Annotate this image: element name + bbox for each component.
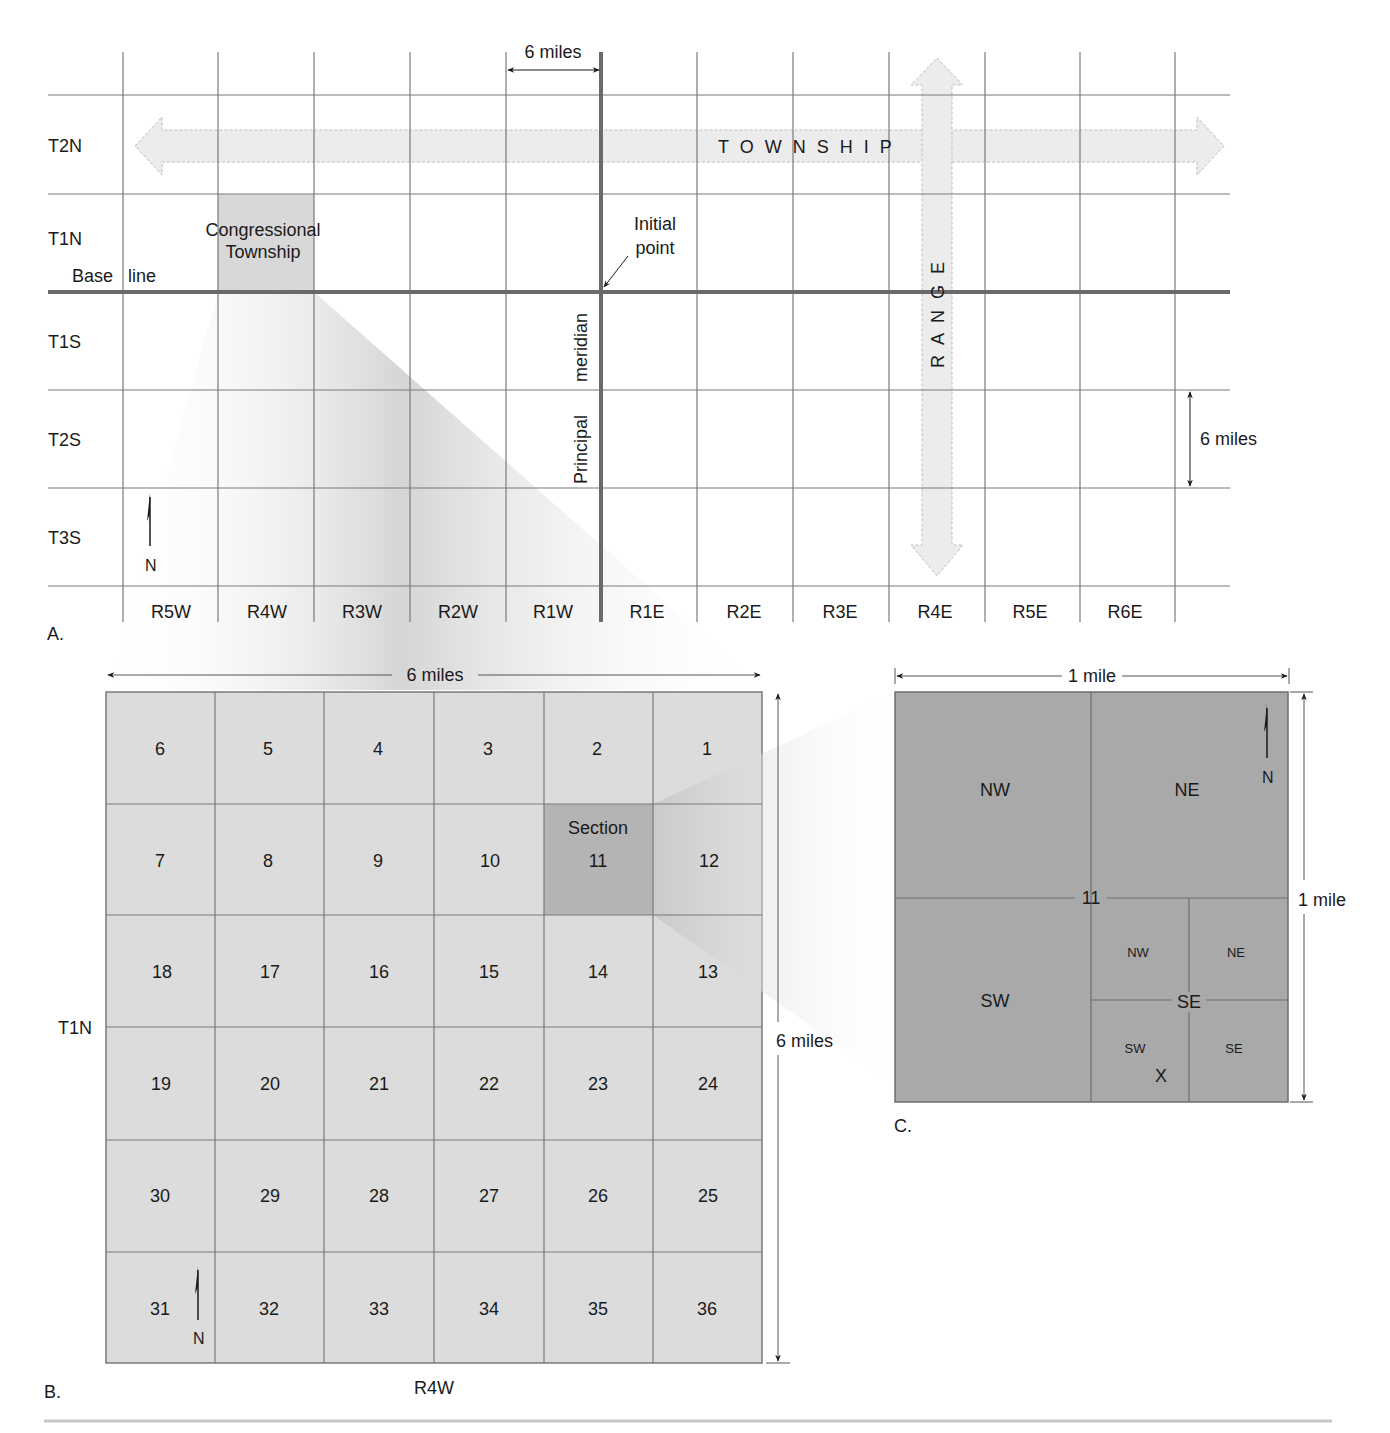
principal-meridian-label: Principal	[571, 415, 591, 484]
dimension-label: 6 miles	[1200, 429, 1257, 449]
section-number: 14	[588, 962, 608, 982]
section-number: 5	[263, 739, 273, 759]
range-label: R5E	[1012, 602, 1047, 622]
base-line-label: line	[128, 266, 156, 286]
section-number: 10	[480, 851, 500, 871]
section-number: 22	[479, 1074, 499, 1094]
subquarter-sw-label: SW	[1125, 1041, 1147, 1056]
section-number: 36	[697, 1299, 717, 1319]
section-number: 4	[373, 739, 383, 759]
range-label: R4E	[917, 602, 952, 622]
township-label: T2N	[48, 136, 82, 156]
dimension-label: 1 mile	[1068, 666, 1116, 686]
section-number: 8	[263, 851, 273, 871]
base-line-label: Base	[72, 266, 113, 286]
section-number: 7	[155, 851, 165, 871]
subquarter-se-label: SE	[1225, 1041, 1243, 1056]
section-number: 26	[588, 1186, 608, 1206]
subquarter-ne-label: NE	[1227, 945, 1245, 960]
section-number: 33	[369, 1299, 389, 1319]
range-label: R5W	[151, 602, 191, 622]
section-number: 23	[588, 1074, 608, 1094]
section-number: 6	[155, 739, 165, 759]
dimension-label: 6 miles	[776, 1031, 833, 1051]
dimension-label: 6 miles	[406, 665, 463, 685]
section-number: 34	[479, 1299, 499, 1319]
township-range-diagram: T2N T1N T1S T2S T3S R5W R4W R3W R2W R1W …	[0, 0, 1390, 1433]
township-label: T3S	[48, 528, 81, 548]
range-label: R1E	[629, 602, 664, 622]
section-number: 12	[699, 851, 719, 871]
township-label: T2S	[48, 430, 81, 450]
panel-b-letter: B.	[44, 1382, 61, 1402]
panel-a-letter: A.	[47, 624, 64, 644]
township-label: T1S	[48, 332, 81, 352]
section-number: 17	[260, 962, 280, 982]
section-number: 24	[698, 1074, 718, 1094]
quarter-sw-label: SW	[981, 991, 1010, 1011]
range-label: R4W	[414, 1378, 454, 1398]
range-label: R2E	[726, 602, 761, 622]
range-label: R3W	[342, 602, 382, 622]
range-label: R1W	[533, 602, 573, 622]
panel-b: 6 5 4 3 2 1 7 8 9 10 11 12 18 17 16 15 1…	[44, 665, 895, 1402]
section-number: 2	[592, 739, 602, 759]
section-number: 30	[150, 1186, 170, 1206]
section-number: 16	[369, 962, 389, 982]
range-label: R6E	[1107, 602, 1142, 622]
township-label: T1N	[48, 229, 82, 249]
quarter-se-label: SE	[1177, 992, 1201, 1012]
congressional-township-label: Congressional	[205, 220, 320, 240]
principal-meridian-label: meridian	[571, 313, 591, 382]
dimension-label: 1 mile	[1298, 890, 1346, 910]
section-word-label: Section	[568, 818, 628, 838]
range-arrow-label: R A N G E	[928, 259, 948, 368]
township-label: T1N	[58, 1018, 92, 1038]
range-label: R4W	[247, 602, 287, 622]
initial-point-pointer	[604, 256, 628, 287]
panel-c-letter: C.	[894, 1116, 912, 1136]
section-number: 20	[260, 1074, 280, 1094]
panel-a: T2N T1N T1S T2S T3S R5W R4W R3W R2W R1W …	[47, 42, 1257, 690]
section-number: 25	[698, 1186, 718, 1206]
location-marker: X	[1155, 1066, 1167, 1086]
svg-text:N: N	[1262, 769, 1274, 786]
section-number: 18	[152, 962, 172, 982]
section-number: 29	[260, 1186, 280, 1206]
section-number: 11	[589, 851, 608, 871]
quarter-nw-label: NW	[980, 780, 1010, 800]
subquarter-nw-label: NW	[1127, 945, 1149, 960]
section-number: 1	[702, 739, 712, 759]
section-number: 28	[369, 1186, 389, 1206]
range-label: R2W	[438, 602, 478, 622]
section-number: 31	[150, 1299, 170, 1319]
panel-c: NW NE SW 11 SE NW NE SW SE X N 1 mile 1 …	[894, 666, 1346, 1136]
section-number: 19	[151, 1074, 171, 1094]
quarter-ne-label: NE	[1174, 780, 1199, 800]
section-number: 3	[483, 739, 493, 759]
initial-point-label: point	[635, 238, 674, 258]
section-number-label: 11	[1082, 888, 1101, 908]
section-number: 27	[479, 1186, 499, 1206]
svg-text:N: N	[145, 557, 157, 574]
zoom-projection-a-to-b	[106, 292, 765, 690]
dimension-label: 6 miles	[524, 42, 581, 62]
section-number: 9	[373, 851, 383, 871]
initial-point-label: Initial	[634, 214, 676, 234]
section-number: 35	[588, 1299, 608, 1319]
congressional-township-label: Township	[225, 242, 300, 262]
range-label: R3E	[822, 602, 857, 622]
section-number: 32	[259, 1299, 279, 1319]
section-number: 15	[479, 962, 499, 982]
section-number: 13	[698, 962, 718, 982]
township-arrow	[135, 117, 1224, 175]
section-number: 21	[369, 1074, 389, 1094]
svg-text:N: N	[193, 1330, 205, 1347]
township-arrow-label: T O W N S H I P	[718, 137, 895, 157]
